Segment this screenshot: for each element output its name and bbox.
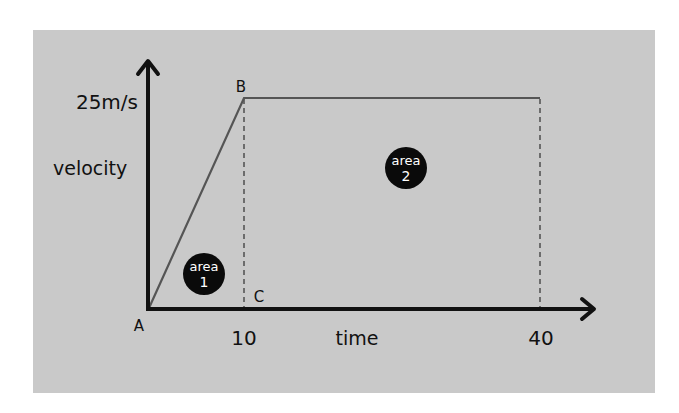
x-axis-label: time bbox=[336, 327, 379, 349]
velocity-time-graph: 25m/s velocity time 10 40 A B C area 1 a… bbox=[0, 0, 679, 413]
y-axis-label: velocity bbox=[53, 157, 127, 179]
area-1-badge: area 1 bbox=[183, 253, 225, 295]
point-label-a: A bbox=[134, 317, 145, 335]
area-2-label: area bbox=[392, 153, 421, 168]
area-2-number: 2 bbox=[402, 168, 411, 184]
x-tick-40: 40 bbox=[528, 326, 553, 350]
point-label-c: C bbox=[254, 288, 264, 306]
area-1-number: 1 bbox=[200, 274, 209, 290]
x-tick-10: 10 bbox=[231, 326, 256, 350]
point-label-b: B bbox=[236, 78, 246, 96]
y-tick-25: 25m/s bbox=[76, 90, 138, 114]
area-1-label: area bbox=[190, 259, 219, 274]
area-2-badge: area 2 bbox=[385, 147, 427, 189]
